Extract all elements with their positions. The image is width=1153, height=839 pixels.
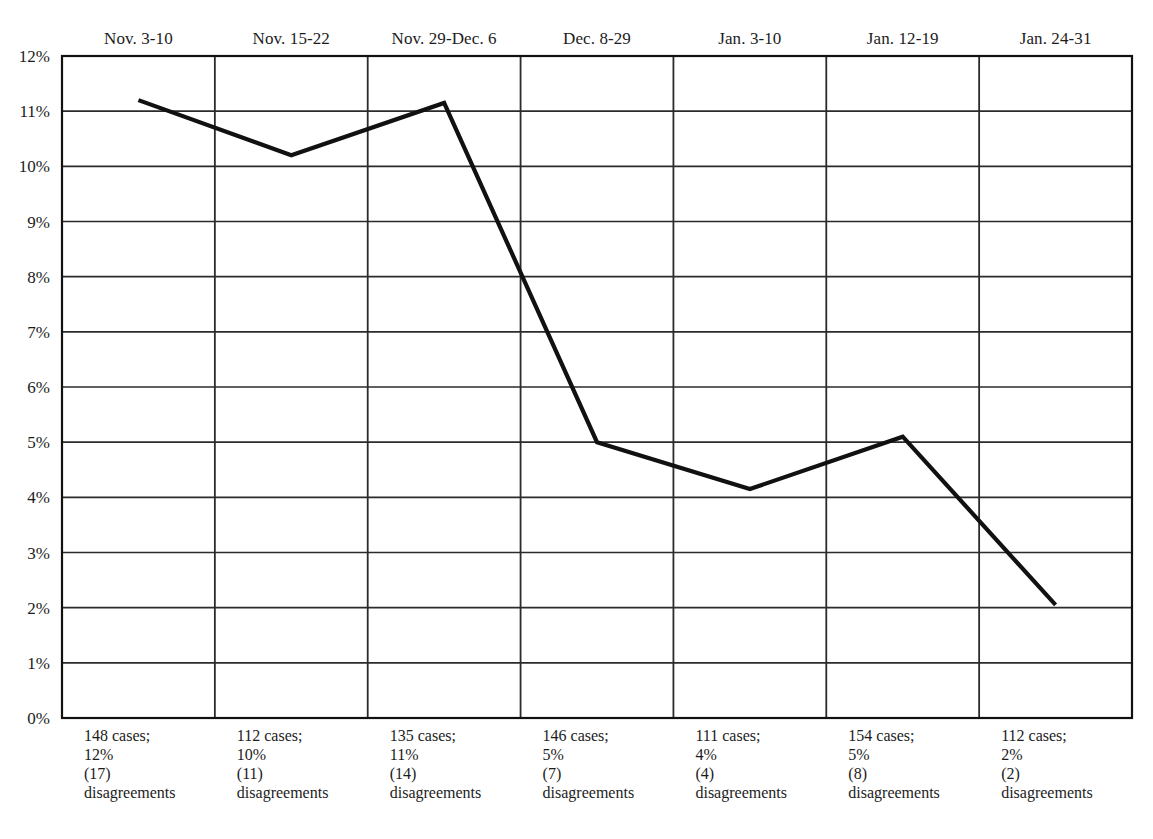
x-axis-label-1: Nov. 15-22 <box>215 28 368 52</box>
annotation-cases: 112 cases; <box>237 726 368 745</box>
annotation-block-0: 148 cases;12%(17)disagreements <box>62 726 215 826</box>
y-axis-tick-labels: 12%11%10%9%8%7%6%5%4%3%2%1%0% <box>0 56 56 718</box>
annotation-percent: 5% <box>543 745 674 764</box>
x-axis-category-labels: Nov. 3-10Nov. 15-22Nov. 29-Dec. 6Dec. 8-… <box>62 28 1132 52</box>
x-axis-label-2: Nov. 29-Dec. 6 <box>368 28 521 52</box>
y-axis-label-12: 12% <box>19 48 50 65</box>
x-axis-label-3: Dec. 8-29 <box>521 28 674 52</box>
data-line-series-1 <box>138 100 1055 605</box>
annotation-cases: 112 cases; <box>1001 726 1132 745</box>
annotation-block-2: 135 cases;11%(14)disagreements <box>368 726 521 826</box>
annotation-count: (17) <box>84 764 215 783</box>
annotation-cases: 135 cases; <box>390 726 521 745</box>
annotation-cases: 111 cases; <box>695 726 826 745</box>
y-axis-label-3: 3% <box>27 544 50 561</box>
y-axis-label-2: 2% <box>27 599 50 616</box>
annotation-label: disagreements <box>695 783 826 802</box>
annotation-count: (8) <box>848 764 979 783</box>
annotation-label: disagreements <box>543 783 674 802</box>
line-chart: Nov. 3-10Nov. 15-22Nov. 29-Dec. 6Dec. 8-… <box>0 0 1153 839</box>
y-axis-label-0: 0% <box>27 710 50 727</box>
annotation-count: (11) <box>237 764 368 783</box>
annotation-percent: 5% <box>848 745 979 764</box>
y-axis-label-7: 7% <box>27 323 50 340</box>
annotation-cases: 154 cases; <box>848 726 979 745</box>
y-axis-label-1: 1% <box>27 654 50 671</box>
annotation-count: (14) <box>390 764 521 783</box>
y-axis-label-6: 6% <box>27 379 50 396</box>
annotation-block-5: 154 cases;5%(8)disagreements <box>826 726 979 826</box>
annotation-block-4: 111 cases;4%(4)disagreements <box>673 726 826 826</box>
annotation-count: (4) <box>695 764 826 783</box>
plot-area <box>62 56 1132 718</box>
y-axis-label-4: 4% <box>27 489 50 506</box>
annotation-block-6: 112 cases;2%(2)disagreements <box>979 726 1132 826</box>
y-axis-label-10: 10% <box>19 158 50 175</box>
x-axis-label-5: Jan. 12-19 <box>826 28 979 52</box>
annotation-count: (7) <box>543 764 674 783</box>
x-axis-label-4: Jan. 3-10 <box>673 28 826 52</box>
horizontal-gridlines <box>62 111 1132 663</box>
plot-svg <box>62 56 1132 718</box>
annotation-blocks: 148 cases;12%(17)disagreements112 cases;… <box>62 726 1132 826</box>
annotation-label: disagreements <box>1001 783 1132 802</box>
y-axis-label-5: 5% <box>27 434 50 451</box>
y-axis-label-8: 8% <box>27 268 50 285</box>
annotation-percent: 12% <box>84 745 215 764</box>
x-axis-label-6: Jan. 24-31 <box>979 28 1132 52</box>
annotation-cases: 146 cases; <box>543 726 674 745</box>
annotation-percent: 10% <box>237 745 368 764</box>
annotation-label: disagreements <box>390 783 521 802</box>
annotation-percent: 4% <box>695 745 826 764</box>
annotation-block-3: 146 cases;5%(7)disagreements <box>521 726 674 826</box>
annotation-cases: 148 cases; <box>84 726 215 745</box>
annotation-label: disagreements <box>84 783 215 802</box>
annotation-block-1: 112 cases;10%(11)disagreements <box>215 726 368 826</box>
annotation-label: disagreements <box>848 783 979 802</box>
annotation-percent: 11% <box>390 745 521 764</box>
x-axis-label-0: Nov. 3-10 <box>62 28 215 52</box>
annotation-percent: 2% <box>1001 745 1132 764</box>
annotation-label: disagreements <box>237 783 368 802</box>
y-axis-label-11: 11% <box>19 103 50 120</box>
annotation-count: (2) <box>1001 764 1132 783</box>
y-axis-label-9: 9% <box>27 213 50 230</box>
